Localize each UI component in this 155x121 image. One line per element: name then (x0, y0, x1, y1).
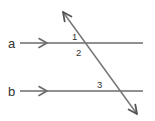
angle-label-3: 3 (97, 79, 102, 90)
transversal-line (63, 12, 137, 114)
line-b-group (20, 87, 143, 96)
line-a-group (20, 39, 143, 48)
transversal-group (63, 12, 137, 114)
geometry-diagram: a b 1 2 3 (0, 0, 155, 121)
geometry-canvas: a b 1 2 3 (0, 0, 155, 121)
angle-label-1: 1 (72, 31, 77, 42)
line-b-label: b (8, 84, 15, 99)
line-a-label: a (8, 36, 16, 51)
angle-label-2: 2 (76, 47, 81, 58)
